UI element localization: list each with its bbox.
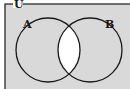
set-b-label: B [105, 18, 114, 31]
universe-label: U [14, 0, 24, 11]
set-a-label: A [22, 18, 32, 31]
venn-diagram: U A B [0, 0, 130, 89]
